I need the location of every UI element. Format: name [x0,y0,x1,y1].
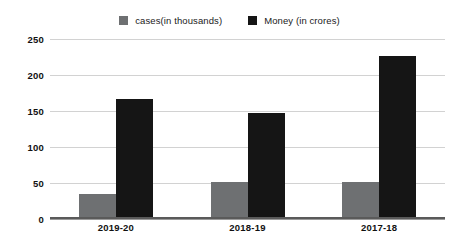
gridline [50,219,445,220]
y-axis-tick-label: 100 [28,142,44,153]
plot-area [50,39,445,219]
bar-chart: cases(in thousands) Money (in crores) 05… [0,0,459,248]
bar-money [248,113,285,219]
legend-label-money: Money (in crores) [264,15,340,26]
x-axis-labels: 2019-202018-192017-18 [50,222,445,238]
x-axis-tick-label: 2017-18 [361,222,397,233]
bar-money [379,56,416,219]
y-axis-tick-label: 200 [28,70,44,81]
legend-swatch-money [248,16,257,25]
bar-cases [211,182,248,219]
y-axis-tick-label: 150 [28,106,44,117]
legend-item-cases: cases(in thousands) [119,15,222,26]
legend-item-money: Money (in crores) [248,15,340,26]
y-axis-tick-label: 50 [33,178,44,189]
y-axis-labels: 050100150200250 [0,39,44,219]
legend-swatch-cases [119,16,128,25]
bar-cases [79,194,116,219]
x-axis-tick-label: 2019-20 [98,222,134,233]
y-axis-tick-label: 0 [39,214,44,225]
x-axis-tick-label: 2018-19 [229,222,265,233]
y-axis-tick-label: 250 [28,34,44,45]
bar-series-container [50,39,445,219]
bar-money [116,99,153,219]
x-axis-line [50,217,445,219]
chart-legend: cases(in thousands) Money (in crores) [0,12,459,28]
legend-label-cases: cases(in thousands) [135,15,222,26]
bar-cases [342,182,379,219]
